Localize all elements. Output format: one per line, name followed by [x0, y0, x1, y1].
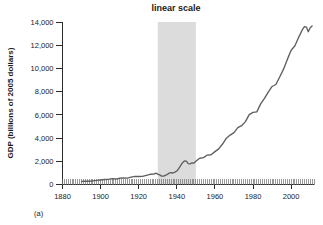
figure-panel-a: 02,0004,0006,0008,00010,00012,00014,000 …: [0, 0, 323, 225]
x-tick-label-1940: 1940: [168, 192, 185, 201]
y-tick-label-2000: 2,000: [35, 157, 54, 166]
x-tick-label-1900: 1900: [92, 192, 109, 201]
y-tick-label-4000: 4,000: [35, 134, 54, 143]
x-tick-label-1960: 1960: [207, 192, 224, 201]
shaded-region-0: [158, 22, 196, 185]
y-tick-label-6000: 6,000: [35, 111, 54, 120]
x-tick-label-1980: 1980: [245, 192, 262, 201]
y-tick-label-8000: 8,000: [35, 87, 54, 96]
y-tick-label-14000: 14,000: [31, 18, 54, 27]
y-tick-label-10000: 10,000: [31, 64, 54, 73]
y-tick-label-12000: 12,000: [31, 41, 54, 50]
gdp-linear-scale-chart: 02,0004,0006,0008,00010,00012,00014,000 …: [0, 0, 323, 225]
panel-label: (a): [34, 209, 44, 218]
chart-title: linear scale: [151, 3, 200, 13]
y-axis-label: GDP (billions of 2005 dollars): [6, 47, 15, 158]
y-tick-label-0: 0: [49, 180, 53, 189]
x-tick-label-1880: 1880: [54, 192, 71, 201]
x-tick-label-1920: 1920: [130, 192, 147, 201]
shaded-region-group: [158, 22, 196, 185]
x-tick-label-2000: 2000: [283, 192, 300, 201]
